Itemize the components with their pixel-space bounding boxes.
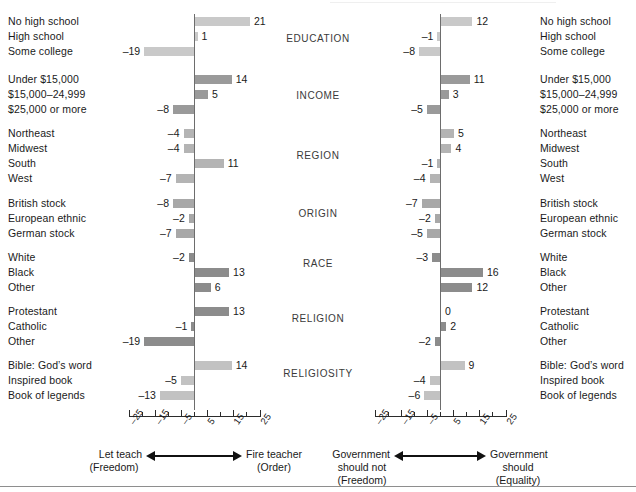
axis-pole-label-right: Fire teacher [246, 448, 302, 461]
bar-value-label: 11 [474, 72, 485, 87]
bar-row: Some college–19 [0, 44, 318, 59]
bar-row: Northeast5 [318, 126, 636, 141]
bar-value-label: –1 [422, 29, 434, 44]
group-title-religion: RELIGION [258, 313, 378, 324]
bar [189, 253, 194, 262]
category-label: Catholic [540, 319, 579, 334]
axis-pole-label-left: (Freedom) [89, 461, 138, 474]
category-label: No high school [540, 14, 611, 29]
bar-row: Other6 [0, 280, 318, 295]
bar-value-label: 12 [476, 14, 488, 29]
bar-value-label: –7 [406, 196, 418, 211]
bar-value-label: –4 [168, 141, 180, 156]
bar [435, 337, 440, 346]
bar [173, 105, 194, 114]
category-label: British stock [8, 196, 66, 211]
category-label: Other [540, 334, 567, 349]
axis-pole-label-right: should [503, 461, 534, 474]
bar-value-label: 21 [254, 14, 266, 29]
bar-value-label: 13 [233, 304, 245, 319]
category-label: European ethnic [8, 211, 86, 226]
bar-row: West–4 [318, 171, 636, 186]
bar-value-label: 5 [212, 87, 218, 102]
bar [441, 268, 483, 277]
axis-tick-minor [440, 412, 441, 417]
category-label: Bible: God’s word [8, 358, 92, 373]
bar [195, 307, 229, 316]
bar-value-label: –6 [409, 388, 421, 403]
bar [441, 17, 472, 26]
category-label: High school [540, 29, 596, 44]
bar-row: Northeast–4 [0, 126, 318, 141]
axis-pole-label-left: Let teach [99, 448, 142, 461]
bar [422, 199, 440, 208]
category-label: High school [8, 29, 64, 44]
bar [435, 214, 440, 223]
bar [441, 90, 449, 99]
axis-pole-label-right: (Order) [257, 461, 291, 474]
category-label: European ethnic [540, 211, 618, 226]
bar [441, 322, 446, 331]
category-label: British stock [540, 196, 598, 211]
category-label: Inspired book [8, 373, 72, 388]
category-label: Midwest [8, 141, 47, 156]
category-label: White [540, 250, 567, 265]
group-title-race: RACE [258, 258, 378, 269]
bar [195, 75, 232, 84]
category-label: Under $15,000 [540, 72, 611, 87]
bar-value-label: –13 [138, 388, 156, 403]
bar-row: $25,000 or more–5 [318, 102, 636, 117]
category-label: South [540, 156, 568, 171]
bottom-rule [0, 486, 636, 487]
bar-value-label: –2 [173, 211, 185, 226]
axis-pole-label-right: Government [490, 448, 548, 461]
bar [195, 268, 229, 277]
bar-value-label: 5 [458, 126, 464, 141]
bar-value-label: –2 [173, 250, 185, 265]
bar [427, 105, 440, 114]
category-label: South [8, 156, 36, 171]
bar-row: No high school21 [0, 14, 318, 29]
bar [184, 144, 194, 153]
bar-value-label: –8 [157, 196, 169, 211]
bar-row: German stock–7 [0, 226, 318, 241]
bar-value-label: –3 [416, 250, 428, 265]
category-label: German stock [540, 226, 607, 241]
category-label: Black [540, 265, 566, 280]
bar [176, 174, 194, 183]
bar-row: Other–19 [0, 334, 318, 349]
bar [181, 376, 194, 385]
bar-value-label: –7 [160, 171, 172, 186]
bar-value-label: 4 [455, 141, 461, 156]
category-label: Other [8, 280, 35, 295]
category-label: $25,000 or more [540, 102, 619, 117]
bar-value-label: 2 [450, 319, 456, 334]
bar [441, 283, 472, 292]
bar-value-label: –5 [165, 373, 177, 388]
bar-value-label: 9 [469, 358, 475, 373]
axis-tick-label: 5 [451, 416, 463, 427]
panel-freedom-equality: No high school12High school–1Some colleg… [318, 0, 636, 410]
group-title-region: REGION [258, 150, 378, 161]
category-label: Midwest [540, 141, 579, 156]
category-label: Some college [8, 44, 73, 59]
bar-value-label: 16 [487, 265, 499, 280]
bar [419, 47, 440, 56]
bar-value-label: 11 [228, 156, 239, 171]
bar [437, 159, 440, 168]
category-label: Other [540, 280, 567, 295]
bar-row: Under $15,00011 [318, 72, 636, 87]
category-label: West [8, 171, 32, 186]
category-label: Some college [540, 44, 605, 59]
bar [144, 47, 194, 56]
bar-value-label: –19 [123, 44, 141, 59]
bar-value-label: 0 [445, 304, 451, 319]
bar [441, 361, 465, 370]
bar-row: Other12 [318, 280, 636, 295]
category-label: White [8, 250, 35, 265]
double-arrow-icon [394, 450, 486, 461]
group-title-education: EDUCATION [258, 33, 378, 44]
bar [427, 229, 440, 238]
arrow-head-right [233, 451, 242, 461]
bar-value-label: –4 [414, 373, 426, 388]
